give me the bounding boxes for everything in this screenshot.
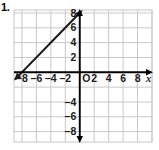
y-tick-label: 6	[70, 21, 76, 33]
x-tick-label: 2	[91, 72, 97, 84]
x-tick-label: –4	[45, 72, 57, 84]
x-tick-label: –2	[59, 72, 71, 84]
y-tick-label: 2	[70, 51, 76, 63]
x-tick-label: 6	[120, 72, 126, 84]
x-axis-label: x	[145, 73, 151, 84]
y-tick-label: –6	[65, 110, 77, 122]
y-tick-label: –4	[65, 96, 77, 108]
x-tick-label: 8	[135, 72, 141, 84]
coordinate-plane: –8–6–4–22468 8642–4–6–8 O x	[0, 0, 159, 150]
x-tick-label: –8	[16, 72, 28, 84]
coordinate-plane-svg: –8–6–4–22468 8642–4–6–8 O x	[0, 0, 159, 150]
x-tick-label: –6	[31, 72, 43, 84]
y-tick-label: 4	[70, 36, 76, 48]
y-tick-label: –8	[65, 125, 77, 137]
x-tick-label: 4	[106, 72, 112, 84]
y-tick-label: 8	[70, 7, 76, 19]
problem-figure: 1. –8–6–4–22468 8642–4–6–8 O x	[0, 0, 159, 150]
origin-label: O	[82, 72, 90, 84]
